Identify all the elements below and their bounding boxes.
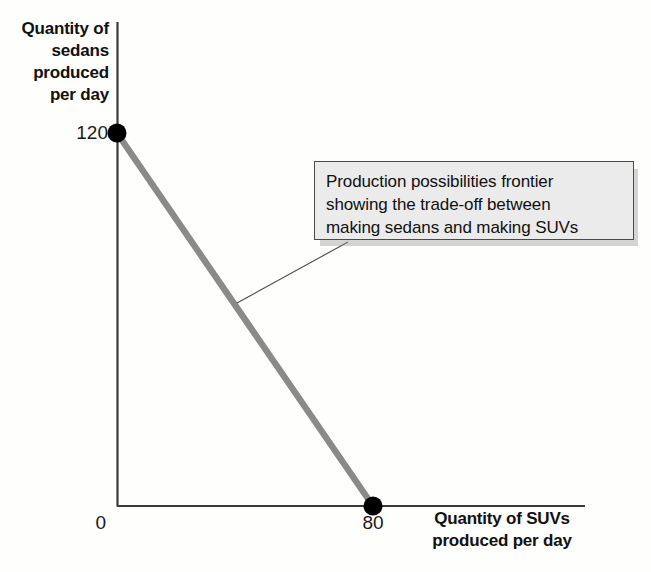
plot-area: [0, 0, 651, 572]
annotation-line-3: making sedans and making SUVs: [326, 216, 627, 239]
annotation-callout-box: Production possibilities frontier showin…: [314, 161, 634, 240]
ppf-chart-figure: Quantity of sedans produced per day Quan…: [0, 0, 651, 572]
annotation-line-2: showing the trade-off between: [326, 193, 627, 216]
annotation-callout-text: Production possibilities frontier showin…: [326, 170, 627, 239]
ppf-endpoint-suvs-80: [364, 497, 383, 516]
annotation-line-1: Production possibilities frontier: [326, 170, 627, 193]
ppf-endpoint-sedans-120: [108, 124, 127, 143]
callout-leader-line: [237, 242, 348, 303]
